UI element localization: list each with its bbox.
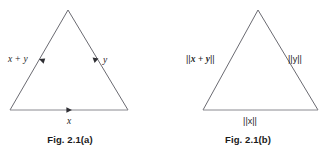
panel-b-left-plus: + [195, 54, 205, 64]
panel-a-left-edge-arrowhead [39, 58, 45, 63]
figure-container: x + y y x Fig. 2.1(a) ||x + y|| ||y|| ||… [0, 0, 324, 153]
panel-b-bottom-edge-label: ||x|| [243, 116, 257, 126]
panel-a-bottom-edge-label: x [66, 116, 72, 126]
panel-a-caption: Fig. 2.1(a) [47, 134, 92, 145]
panel-b-group: ||x + y|| ||y|| ||x|| Fig. 2.1(b) [186, 10, 318, 145]
panel-a-left-edge-label: x + y [7, 54, 28, 64]
panel-b-left-edge-label: ||x + y|| [186, 54, 215, 64]
panel-a-group: x + y y x Fig. 2.1(a) [7, 10, 128, 145]
panel-a-bottom-edge-arrowhead [66, 107, 72, 113]
panel-a-right-edge-arrowhead [93, 58, 99, 64]
panel-a-right-edge [68, 10, 128, 110]
figure-canvas: x + y y x Fig. 2.1(a) ||x + y|| ||y|| ||… [0, 0, 324, 153]
panel-a-right-edge-label: y [102, 55, 108, 65]
panel-b-right-edge-label: ||y|| [288, 54, 302, 64]
panel-b-caption: Fig. 2.1(b) [225, 134, 271, 145]
panel-b-left-bar-close: || [210, 54, 215, 64]
